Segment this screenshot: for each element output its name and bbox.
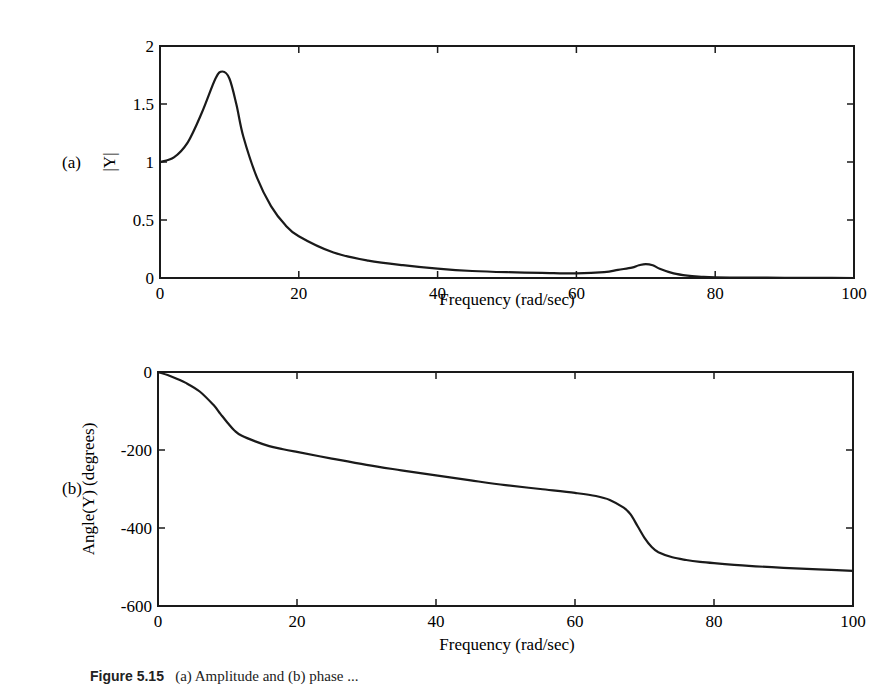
panel-b-y-ticks: -600-400-2000 — [121, 363, 853, 616]
panel-b-phase-plot: (b) Angle(Y) (degrees) 020406080100 -600… — [62, 363, 866, 654]
panel-b-y-axis-label: Angle(Y) (degrees) — [79, 423, 98, 556]
panel-a-magnitude-plot: (a) |Y| 020406080100 00.511.52 Frequency… — [62, 37, 867, 309]
x-tick-label: 80 — [706, 612, 723, 631]
y-tick-label: -200 — [121, 441, 152, 460]
panel-b-phase-curve — [158, 372, 853, 571]
x-tick-label: 40 — [428, 612, 445, 631]
figure-caption-text: (a) Amplitude and (b) phase ... — [175, 668, 358, 684]
x-tick-label: 100 — [841, 284, 867, 303]
y-tick-label: 1 — [146, 153, 155, 172]
panel-a-y-axis-label: |Y| — [100, 152, 119, 171]
x-tick-label: 20 — [289, 612, 306, 631]
panel-a-plot-frame — [160, 46, 854, 278]
x-tick-label: 80 — [707, 284, 724, 303]
panel-a-x-axis-label: Frequency (rad/sec) — [439, 290, 574, 309]
y-tick-label: 0.5 — [133, 211, 154, 230]
x-tick-label: 0 — [156, 284, 165, 303]
y-tick-label: 0 — [146, 269, 155, 288]
figure: (a) |Y| 020406080100 00.511.52 Frequency… — [0, 0, 892, 688]
panel-b-x-ticks: 020406080100 — [154, 372, 866, 631]
figure-caption: Figure 5.15 (a) Amplitude and (b) phase … — [90, 668, 358, 685]
panel-a-label: (a) — [62, 153, 81, 172]
x-tick-label: 20 — [290, 284, 307, 303]
x-tick-label: 100 — [840, 612, 866, 631]
y-tick-label: 1.5 — [133, 95, 154, 114]
y-tick-label: 0 — [144, 363, 153, 382]
y-tick-label: -400 — [121, 519, 152, 538]
y-tick-label: 2 — [146, 37, 155, 56]
panel-a-y-ticks: 00.511.52 — [133, 37, 854, 288]
panel-b-plot-frame — [158, 372, 853, 606]
x-tick-label: 60 — [567, 612, 584, 631]
figure-caption-label: Figure 5.15 — [90, 668, 164, 684]
panel-b-x-axis-label: Frequency (rad/sec) — [439, 635, 574, 654]
x-tick-label: 0 — [154, 612, 163, 631]
y-tick-label: -600 — [121, 597, 152, 616]
panel-a-magnitude-curve — [160, 72, 854, 279]
panel-a-x-ticks: 020406080100 — [156, 46, 867, 303]
